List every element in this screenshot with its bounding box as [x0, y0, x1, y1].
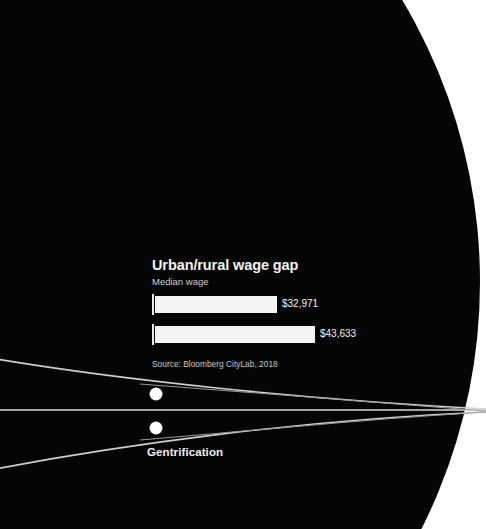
node-label-gentrification[interactable]: Gentrification — [147, 446, 223, 458]
screenshot-stage: Urban/rural wage gap Median wage Small r… — [0, 0, 486, 529]
bar-fill-urban[interactable] — [155, 326, 315, 343]
bar-axis-urban — [152, 324, 154, 345]
bar-value-rural: $32,971 — [282, 298, 318, 309]
bar-value-urban: $43,633 — [320, 328, 356, 339]
bar-fill-rural[interactable] — [155, 296, 277, 313]
chart-title: Urban/rural wage gap — [152, 257, 298, 273]
chart-source: Source: Bloomberg CityLab, 2018 — [152, 359, 278, 369]
wage-gap-chart: Urban/rural wage gap Median wage Small r… — [0, 0, 486, 529]
bar-axis-rural — [152, 294, 154, 315]
chart-subtitle: Median wage — [152, 276, 209, 287]
